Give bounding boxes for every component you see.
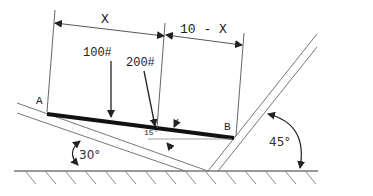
- dimension-label-x: X: [101, 12, 109, 27]
- point-label-a: A: [36, 95, 43, 107]
- dimension-line-x: [55, 23, 164, 36]
- left-incline-30deg: [17, 103, 208, 171]
- beam-on-inclines-diagram: X 10 - X 100# 200# A B 15° 30° 45°: [0, 0, 373, 196]
- load-label-100: 100#: [83, 46, 112, 60]
- point-label-b: B: [224, 121, 231, 133]
- angle-label-15: 15°: [144, 128, 158, 137]
- load-label-200: 200#: [126, 56, 155, 70]
- angle-label-45: 45°: [269, 135, 290, 149]
- load-arrow-200: [144, 71, 155, 126]
- angle-label-30: 30°: [79, 148, 100, 162]
- dimension-label-10-minus-x: 10 - X: [180, 22, 227, 37]
- beam-ab: [47, 114, 234, 138]
- beam-angle-arrows: [167, 119, 178, 149]
- ground: [14, 171, 318, 184]
